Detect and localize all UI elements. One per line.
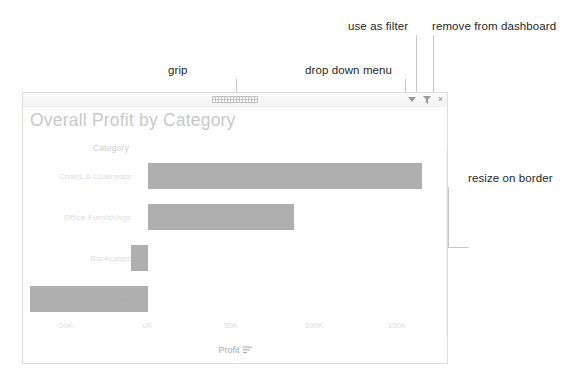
category-axis-header: Category (93, 143, 129, 153)
axis-tick-label: 150K (388, 321, 407, 330)
annotation-label-use-as-filter: use as filter (348, 20, 408, 32)
dashboard-panel[interactable]: × Overall Profit by Category Category Ch… (22, 92, 448, 364)
leader-line-use-as-filter (416, 35, 418, 93)
chart-bar[interactable] (148, 204, 294, 230)
leader-line-resize-on-border (448, 187, 469, 248)
chart-plot-area: Chairs & ChairmatsOffice FurnishingsBook… (23, 155, 447, 320)
value-axis-title[interactable]: Profit (23, 345, 447, 356)
chevron-down-icon[interactable] (408, 97, 416, 102)
annotation-label-drop-down-menu: drop down menu (305, 64, 392, 76)
sort-descending-icon[interactable] (243, 346, 252, 356)
axis-tick-label: 50K (224, 321, 238, 330)
filter-funnel-icon[interactable] (423, 96, 431, 104)
chart-row[interactable]: Bookcases (23, 238, 447, 279)
page-title: Overall Profit by Category (30, 110, 236, 131)
category-label: Chairs & Chairmats (59, 171, 131, 180)
plot-right-border (446, 151, 447, 336)
chart-row[interactable]: Tables (23, 279, 447, 320)
value-axis-title-text: Profit (218, 345, 239, 355)
chart-row[interactable]: Office Furnishings (23, 196, 447, 237)
titlebar-icon-group: × (408, 93, 443, 106)
chart-bar[interactable] (148, 163, 422, 189)
chart-row[interactable]: Chairs & Chairmats (23, 155, 447, 196)
annotation-label-resize-on-border: resize on border (468, 172, 553, 184)
category-label: Bookcases (91, 254, 131, 263)
category-label: Office Furnishings (64, 212, 131, 221)
panel-titlebar[interactable]: × (23, 93, 447, 107)
close-icon[interactable]: × (438, 95, 443, 104)
grip-handle[interactable] (212, 96, 258, 103)
leader-line-remove-from-dashboard (433, 35, 435, 93)
annotation-label-remove-from-dashboard: remove from dashboard (432, 20, 556, 32)
chart-bar[interactable] (30, 286, 148, 312)
axis-tick-label: -50K (56, 321, 73, 330)
value-axis: -50K0K50K100K150K (23, 321, 447, 337)
axis-tick-label: 100K (305, 321, 324, 330)
annotation-label-grip: grip (168, 64, 188, 76)
chart-bar[interactable] (131, 245, 148, 271)
axis-tick-label: 0K (143, 321, 153, 330)
